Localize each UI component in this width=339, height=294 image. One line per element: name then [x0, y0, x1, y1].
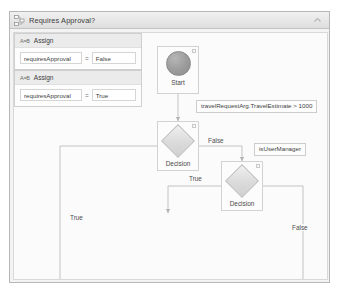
flowchart-icon: [14, 15, 25, 26]
decision-node-1[interactable]: Decision: [157, 121, 199, 171]
assign-header: A=B Assign: [15, 71, 141, 85]
decision-2-condition[interactable]: isUserManager: [254, 143, 306, 156]
decision-diamond-icon: [161, 124, 195, 158]
decision-node-2[interactable]: Decision: [221, 161, 263, 211]
decision-node-1-label: Decision: [166, 160, 191, 167]
edge-label-decision1-false: False: [206, 137, 226, 144]
edge-label-decision2-false: False: [290, 224, 310, 231]
window-title: Requires Approval?: [29, 16, 95, 25]
start-label: Start: [171, 79, 185, 86]
edge-label-decision1-true: True: [68, 214, 85, 221]
resize-handle[interactable]: [256, 164, 260, 168]
assign-glyph-icon: A=B: [20, 75, 30, 81]
resize-handle[interactable]: [192, 49, 196, 53]
flowchart-canvas[interactable]: Start Decision travelRequestArg.TravelEs…: [13, 32, 328, 280]
start-node[interactable]: Start: [157, 46, 199, 94]
activity-designer-window: Requires Approval?: [9, 11, 330, 283]
chevron-up-icon[interactable]: [313, 16, 322, 25]
assign-header: A=B Assign: [15, 34, 141, 48]
edge-label-decision2-true: True: [187, 175, 204, 182]
decision-node-2-label: Decision: [230, 200, 255, 207]
screenshot-root: Requires Approval?: [0, 0, 339, 294]
assign-title: Assign: [34, 37, 54, 44]
decision-1-condition[interactable]: travelRequestArg.TravelEstimate > 1000: [196, 100, 317, 113]
start-circle-icon: [166, 51, 191, 76]
window-titlebar[interactable]: Requires Approval?: [10, 12, 329, 29]
assign-title: Assign: [34, 74, 54, 81]
assign-glyph-icon: A=B: [20, 38, 30, 44]
resize-handle[interactable]: [192, 124, 196, 128]
decision-diamond-icon: [225, 164, 259, 198]
